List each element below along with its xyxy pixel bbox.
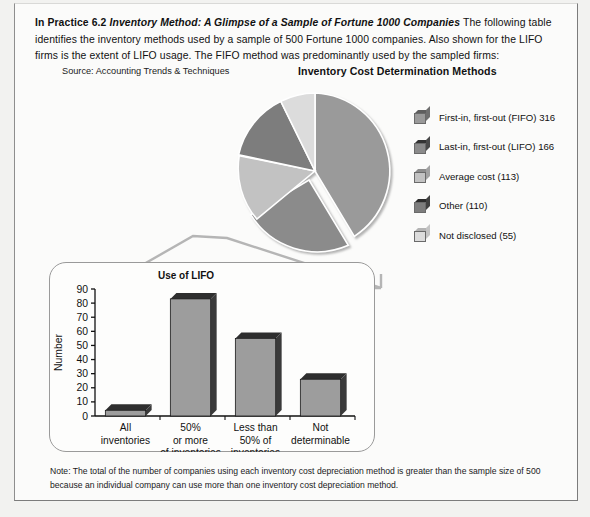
- legend-swatch-cube-icon: [414, 110, 430, 124]
- bar-x-category-label: inventories: [101, 435, 150, 446]
- bar-x-category-label: or more: [173, 435, 208, 446]
- source-caption: Source: Accounting Trends & Techniques: [62, 66, 229, 76]
- bar-y-tick-label: 50: [76, 340, 88, 351]
- intro-lead: In Practice 6.2: [35, 17, 106, 28]
- legend-item-other: Other (110): [414, 197, 590, 215]
- legend-item-average-cost: Average cost (113): [414, 167, 590, 185]
- bar-x-category-label: All: [120, 422, 131, 433]
- bar: [170, 299, 210, 416]
- legend-label: Not disclosed (55): [439, 230, 516, 241]
- bar-top-face: [170, 293, 216, 299]
- legend-label: First-in, first-out (FIFO) 316: [439, 112, 555, 123]
- bar-y-tick-label: 20: [76, 382, 88, 393]
- bar-y-tick-label: 70: [76, 312, 88, 323]
- intro-title: Inventory Method: A Glimpse of a Sample …: [109, 17, 460, 28]
- bar-y-tick-label: 60: [76, 326, 88, 337]
- legend-item-lifo: Last-in, first-out (LIFO) 166: [414, 138, 590, 156]
- intro-paragraph: In Practice 6.2 Inventory Method: A Glim…: [35, 15, 563, 65]
- legend-label: Average cost (113): [439, 171, 519, 182]
- bar-y-tick-label: 90: [76, 284, 88, 295]
- pie-legend: First-in, first-out (FIFO) 316 Last-in, …: [414, 108, 590, 256]
- bar: [235, 338, 275, 416]
- bar-side-face: [211, 293, 217, 416]
- bar-y-tick-label: 40: [76, 354, 88, 365]
- bar-y-tick-label: 10: [76, 396, 88, 407]
- bar-side-face: [276, 332, 282, 416]
- legend-item-not-disclosed: Not disclosed (55): [414, 226, 590, 244]
- content-card: In Practice 6.2 Inventory Method: A Glim…: [14, 3, 578, 501]
- bar: [300, 379, 340, 416]
- bar-y-tick-label: 30: [76, 368, 88, 379]
- bar-side-face: [341, 373, 347, 416]
- legend-swatch-cube-icon: [414, 228, 430, 242]
- bar-x-category-label: of inventories: [160, 447, 221, 452]
- bar-top-face: [300, 373, 346, 379]
- bar-x-category-label: determinable: [291, 435, 350, 446]
- legend-swatch-cube-icon: [414, 199, 430, 213]
- bar: [105, 410, 145, 416]
- bar-x-category-label: 50%: [180, 422, 200, 433]
- legend-label: Other (110): [439, 200, 487, 211]
- bar-y-tick-label: 0: [82, 411, 88, 422]
- bar-y-tick-label: 80: [76, 298, 88, 309]
- bar-x-category-label: Less than: [233, 422, 277, 433]
- screenshot-page: In Practice 6.2 Inventory Method: A Glim…: [0, 0, 590, 517]
- bar-x-category-label: Not: [313, 422, 329, 433]
- pie-chart-title: Inventory Cost Determination Methods: [298, 65, 497, 77]
- bar-y-axis-label: Number: [53, 333, 64, 370]
- legend-swatch-cube-icon: [414, 140, 430, 154]
- bar-chart: 0102030405060708090NumberAllinventories5…: [49, 262, 375, 452]
- pie-chart: [230, 89, 415, 274]
- bar-top-face: [235, 332, 281, 338]
- legend-label: Last-in, first-out (LIFO) 166: [439, 141, 554, 152]
- bar-x-category-label: 50% of: [240, 435, 272, 446]
- bar-top-face: [105, 404, 151, 410]
- footer-note: Note: The total of the number of compani…: [50, 465, 560, 492]
- legend-item-fifo: First-in, first-out (FIFO) 316: [414, 108, 590, 126]
- legend-swatch-cube-icon: [414, 169, 430, 183]
- bar-x-category-label: inventories: [231, 447, 280, 452]
